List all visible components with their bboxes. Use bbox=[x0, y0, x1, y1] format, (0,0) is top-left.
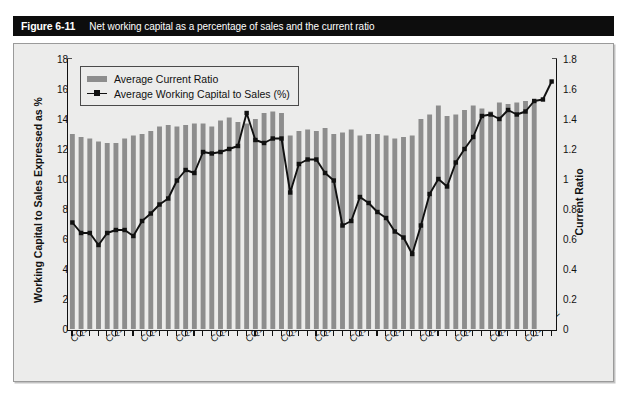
bar bbox=[375, 134, 380, 329]
x-axis-tickmark bbox=[202, 331, 203, 336]
data-point-marker bbox=[105, 231, 109, 235]
bar bbox=[148, 131, 153, 329]
data-point-marker bbox=[323, 171, 327, 175]
data-point-marker bbox=[140, 219, 144, 223]
data-point-marker bbox=[149, 211, 153, 215]
data-point-marker bbox=[96, 243, 100, 247]
x-axis-tickmark bbox=[446, 331, 447, 336]
data-point-marker bbox=[122, 228, 126, 232]
data-point-marker bbox=[253, 138, 257, 142]
data-point-marker bbox=[410, 252, 414, 256]
x-axis-tickmark bbox=[481, 331, 482, 336]
bar bbox=[331, 134, 336, 329]
bar bbox=[506, 104, 511, 329]
x-axis-tickmark bbox=[411, 331, 412, 336]
y-axis-right-tick-label: 1.2 bbox=[563, 144, 577, 155]
data-point-marker bbox=[497, 117, 501, 121]
data-point-marker bbox=[349, 219, 353, 223]
bar bbox=[70, 134, 75, 329]
data-point-marker bbox=[279, 136, 283, 140]
data-point-marker bbox=[288, 190, 292, 194]
bar bbox=[244, 124, 249, 330]
figure-caption-bar: Figure 6-11 Net working capital as a per… bbox=[13, 16, 614, 36]
chart-legend: Average Current Ratio Average Working Ca… bbox=[80, 66, 299, 106]
bar bbox=[349, 130, 354, 330]
bar bbox=[479, 109, 484, 330]
bar bbox=[122, 139, 127, 330]
bar bbox=[340, 133, 345, 330]
data-point-marker bbox=[462, 147, 466, 151]
y-axis-right-tick-label: 1.4 bbox=[563, 114, 577, 125]
x-axis-tickmark bbox=[516, 331, 517, 336]
data-point-marker bbox=[480, 114, 484, 118]
data-point-marker bbox=[175, 178, 179, 182]
y-axis-right-title: Current Ratio bbox=[573, 137, 585, 267]
y-axis-right-tick-label: 1.6 bbox=[563, 84, 577, 95]
data-point-marker bbox=[271, 136, 275, 140]
figure-number: Figure 6-11 bbox=[13, 20, 75, 32]
x-axis-tickmark bbox=[167, 331, 168, 336]
data-point-marker bbox=[454, 160, 458, 164]
data-point-marker bbox=[523, 109, 527, 113]
data-point-marker bbox=[549, 79, 553, 83]
data-point-marker bbox=[131, 234, 135, 238]
data-point-marker bbox=[157, 202, 161, 206]
figure-caption-text: Net working capital as a percentage of s… bbox=[75, 21, 374, 32]
y-axis-right-tick-label: 0.2 bbox=[563, 294, 577, 305]
y-axis-right-tick-label: 0.4 bbox=[563, 264, 577, 275]
bar bbox=[523, 101, 528, 329]
bar bbox=[436, 106, 441, 330]
bar bbox=[235, 122, 240, 329]
bar bbox=[427, 115, 432, 330]
data-point-marker bbox=[427, 192, 431, 196]
bar bbox=[401, 137, 406, 329]
x-axis-tickmark bbox=[342, 331, 343, 336]
data-point-marker bbox=[70, 220, 74, 224]
y-axis-right-tick-label: 1 bbox=[563, 174, 569, 185]
bar-swatch-icon bbox=[87, 76, 107, 82]
bar bbox=[462, 110, 467, 329]
data-point-marker bbox=[366, 201, 370, 205]
legend-item-working-capital: Average Working Capital to Sales (%) bbox=[87, 86, 290, 101]
line-marker-swatch-icon bbox=[87, 89, 107, 99]
data-point-marker bbox=[236, 144, 240, 148]
legend-label-working-capital: Average Working Capital to Sales (%) bbox=[114, 88, 290, 100]
x-axis-tickmark bbox=[237, 331, 238, 336]
data-point-marker bbox=[419, 223, 423, 227]
x-axis-tickmark bbox=[307, 331, 308, 336]
bar bbox=[532, 101, 537, 329]
legend-label-current-ratio: Average Current Ratio bbox=[114, 73, 218, 85]
data-point-marker bbox=[375, 210, 379, 214]
bar bbox=[366, 134, 371, 329]
bar bbox=[384, 136, 389, 330]
figure-container: Figure 6-11 Net working capital as a per… bbox=[0, 0, 632, 399]
bar bbox=[140, 134, 145, 329]
data-point-marker bbox=[358, 195, 362, 199]
bar bbox=[357, 136, 362, 330]
data-point-marker bbox=[218, 150, 222, 154]
bar-series-current-ratio bbox=[70, 101, 537, 329]
bar bbox=[96, 142, 101, 330]
bar bbox=[445, 116, 450, 329]
data-point-marker bbox=[436, 177, 440, 181]
data-point-marker bbox=[79, 231, 83, 235]
data-point-marker bbox=[515, 112, 519, 116]
bar bbox=[453, 115, 458, 330]
data-point-marker bbox=[541, 97, 545, 101]
data-point-marker bbox=[192, 171, 196, 175]
y-axis-right-tick-label: 0 bbox=[563, 324, 569, 335]
x-axis-tickmark bbox=[376, 331, 377, 336]
bar bbox=[488, 112, 493, 330]
bar bbox=[497, 103, 502, 330]
y-axis-right-tick-label: 1.8 bbox=[563, 54, 577, 65]
data-point-marker bbox=[305, 157, 309, 161]
data-point-marker bbox=[532, 99, 536, 103]
data-point-marker bbox=[332, 178, 336, 182]
bar bbox=[410, 136, 415, 330]
chart-panel: Working Capital to Sales Expressed as % … bbox=[13, 43, 614, 382]
data-point-marker bbox=[262, 141, 266, 145]
bar bbox=[166, 125, 171, 329]
y-axis-right-tick-label: 0.6 bbox=[563, 234, 577, 245]
data-point-marker bbox=[340, 223, 344, 227]
bar bbox=[270, 112, 275, 330]
